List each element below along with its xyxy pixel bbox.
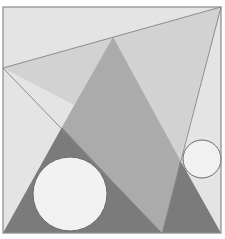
small-circle [183, 140, 221, 178]
geometry-diagram [0, 0, 225, 239]
large-circle [33, 157, 107, 231]
